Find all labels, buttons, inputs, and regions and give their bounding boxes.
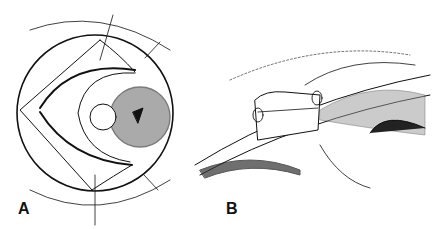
panel-b-label: B [226,200,238,218]
panel-b-illustration [0,0,446,229]
panel-a-label: A [18,200,30,218]
figure: A B [0,0,446,229]
